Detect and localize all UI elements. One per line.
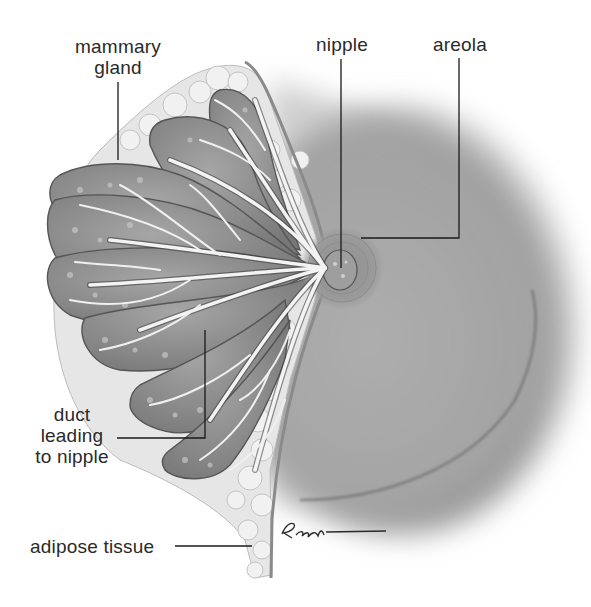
breast-anatomy-diagram: mammary gland nipple areola duct leading… — [0, 0, 591, 607]
nipple — [323, 250, 357, 290]
label-nipple: nipple — [306, 34, 378, 55]
label-duct-line2: leading — [22, 425, 122, 446]
label-areola: areola — [424, 34, 496, 55]
anatomy-illustration — [0, 0, 591, 607]
label-adipose-tissue: adipose tissue — [30, 536, 180, 557]
label-mammary-gland-line2: gland — [62, 57, 174, 78]
label-mammary-gland-line1: mammary — [62, 36, 174, 57]
label-duct-line3: to nipple — [22, 446, 122, 467]
label-duct-line1: duct — [22, 404, 122, 425]
label-mammary-gland: mammary gland — [62, 36, 174, 78]
label-duct-leading-to-nipple: duct leading to nipple — [22, 404, 122, 467]
